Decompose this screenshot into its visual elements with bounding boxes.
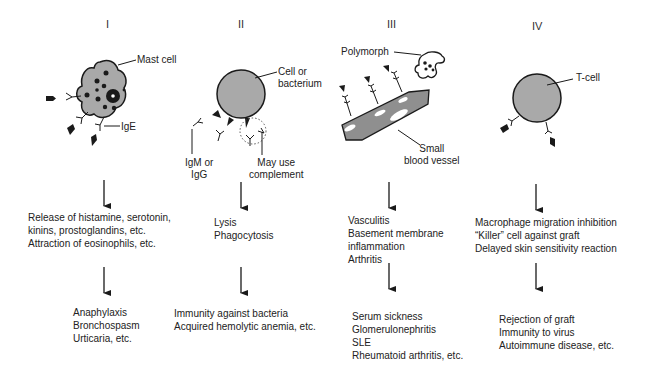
may-use-complement-label: May use complement xyxy=(249,157,303,181)
type-iv-outcomes: Rejection of graft Immunity to virus Aut… xyxy=(499,313,614,352)
mast-cell-pointer xyxy=(118,60,136,65)
antigen-icons xyxy=(339,65,389,92)
small-blood-vessel-icon xyxy=(342,90,429,140)
type-iii-effects: Vasculitis Basement membrane inflammatio… xyxy=(348,214,444,266)
mast-cell-icon xyxy=(77,60,126,117)
type-iv-effects: Macrophage migration inhibition “Killer”… xyxy=(475,216,617,255)
type-iii-numeral: III xyxy=(387,18,396,30)
t-cell-label: T-cell xyxy=(576,72,600,84)
type-ii-effects: Lysis Phagocytosis xyxy=(214,216,273,242)
type-i-effects: Release of histamine, serotonin, kinins,… xyxy=(28,211,171,250)
mast-cell-label: Mast cell xyxy=(137,54,176,66)
polymorph-icon xyxy=(415,52,444,78)
type-ii-numeral: II xyxy=(238,18,244,30)
type-iii-outcomes: Serum sickness Glomerulonephritis SLE Rh… xyxy=(352,310,463,362)
cell-or-bacterium-label: Cell or bacterium xyxy=(278,66,322,90)
type-i-outcomes: Anaphylaxis Bronchospasm Urticaria, etc. xyxy=(73,306,140,345)
igm-igg-label: IgM or IgG xyxy=(185,157,213,181)
polymorph-label: Polymorph xyxy=(341,46,389,58)
type-i-numeral: I xyxy=(106,18,109,30)
ige-label: IgE xyxy=(121,121,136,133)
type-ii-outcomes: Immunity against bacteria Acquired hemol… xyxy=(174,307,316,333)
small-blood-vessel-label: Small blood vessel xyxy=(404,143,460,167)
type-iv-numeral: IV xyxy=(532,20,542,32)
t-cell-icon xyxy=(513,74,561,122)
